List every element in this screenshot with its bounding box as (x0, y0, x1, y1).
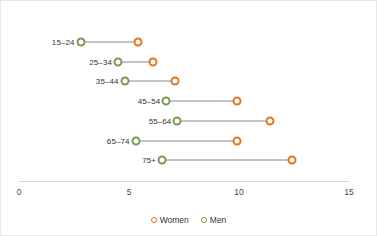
legend-label-women: Women (160, 215, 189, 225)
data-point-men[interactable] (173, 116, 182, 125)
legend-marker-women-icon (151, 217, 157, 223)
dumbbell-connector (166, 101, 236, 102)
data-point-women[interactable] (232, 97, 241, 106)
x-axis-tick-label: 5 (127, 187, 132, 197)
data-point-men[interactable] (131, 136, 140, 145)
data-point-men[interactable] (158, 156, 167, 165)
category-label: 25–34 (1, 57, 112, 66)
dumbbell-plot: 15–2425–3435–4445–5455–6465–7475+051015 (1, 1, 377, 236)
legend-marker-men-icon (201, 217, 207, 223)
data-point-men[interactable] (120, 77, 129, 86)
category-label: 45–54 (1, 97, 160, 106)
category-label: 35–44 (1, 77, 119, 86)
legend-label-men: Men (210, 215, 227, 225)
dumbbell-connector (162, 160, 292, 161)
chart-card: 15–2425–3435–4445–5455–6465–7475+051015 … (0, 0, 377, 236)
x-axis-line (19, 181, 349, 182)
dumbbell-connector (81, 42, 138, 43)
data-point-women[interactable] (171, 77, 180, 86)
dumbbell-connector (177, 120, 269, 121)
legend-item-women[interactable]: Women (151, 215, 189, 225)
x-axis-tick-label: 10 (234, 187, 243, 197)
data-point-women[interactable] (265, 116, 274, 125)
chart-legend: Women Men (1, 215, 376, 225)
legend-item-men[interactable]: Men (201, 215, 227, 225)
data-point-men[interactable] (162, 97, 171, 106)
category-label: 65–74 (1, 136, 130, 145)
data-point-men[interactable] (76, 38, 85, 47)
dumbbell-connector (136, 140, 237, 141)
data-point-men[interactable] (114, 57, 123, 66)
x-axis-tick-label: 15 (344, 187, 353, 197)
dumbbell-connector (125, 81, 176, 82)
data-point-women[interactable] (287, 156, 296, 165)
x-axis-tick-label: 0 (17, 187, 22, 197)
data-point-women[interactable] (133, 38, 142, 47)
category-label: 75+ (1, 156, 156, 165)
data-point-women[interactable] (149, 57, 158, 66)
category-label: 15–24 (1, 38, 75, 47)
data-point-women[interactable] (232, 136, 241, 145)
category-label: 55–64 (1, 116, 171, 125)
